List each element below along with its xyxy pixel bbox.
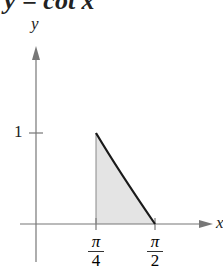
x-axis-label: x [216, 213, 223, 233]
denominator: 2 [145, 253, 165, 269]
x-tick-label-pi-4: π 4 [86, 234, 106, 269]
plot-canvas [0, 0, 223, 280]
denominator: 4 [86, 253, 106, 269]
x-axis-arrow-icon [199, 220, 213, 228]
numerator: π [86, 234, 106, 250]
numerator: π [145, 234, 165, 250]
y-axis-arrow-icon [32, 46, 40, 60]
y-tick-label-1: 1 [14, 122, 23, 142]
y-axis-label: y [31, 14, 39, 34]
chart-title: y = cot x [4, 0, 95, 16]
x-tick-label-pi-2: π 2 [145, 234, 165, 269]
